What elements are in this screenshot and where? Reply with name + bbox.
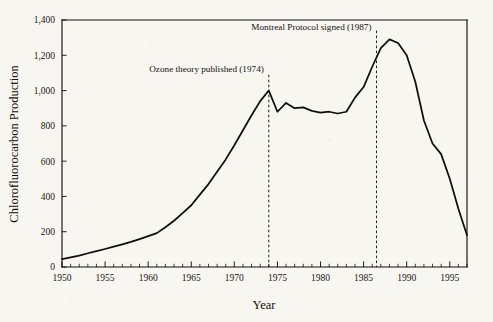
x-axis-title: Year: [252, 298, 276, 312]
y-tick-label: 600: [41, 157, 56, 167]
x-tick-label: 1970: [225, 273, 244, 283]
x-tick-label: 1960: [139, 273, 158, 283]
x-tick-label: 1975: [268, 273, 287, 283]
y-tick-label: 400: [41, 192, 56, 202]
chart-figure: 02004006008001,0001,2001,400 19501955196…: [0, 0, 493, 322]
x-tick-label: 1980: [311, 273, 330, 283]
x-tick-label: 1995: [440, 273, 459, 283]
y-tick-label: 0: [50, 262, 55, 272]
y-tick-label: 200: [41, 227, 56, 237]
x-tick-label: 1965: [182, 273, 201, 283]
y-tick-label: 800: [41, 121, 56, 131]
y-tick-label: 1,000: [34, 86, 56, 96]
figure-background: [0, 0, 493, 322]
x-tick-label: 1950: [53, 273, 72, 283]
x-tick-label: 1955: [96, 273, 115, 283]
y-tick-label: 1,400: [34, 15, 56, 25]
annotation-label-ozone-theory: Ozone theory published (1974): [149, 64, 264, 74]
x-tick-label: 1990: [397, 273, 416, 283]
y-tick-label: 1,200: [34, 51, 56, 61]
annotation-label-montreal-protocol: Montreal Protocol signed (1987): [251, 22, 371, 32]
y-axis-title: Chlorofluorocarbon Production: [7, 65, 21, 223]
x-tick-label: 1985: [354, 273, 373, 283]
